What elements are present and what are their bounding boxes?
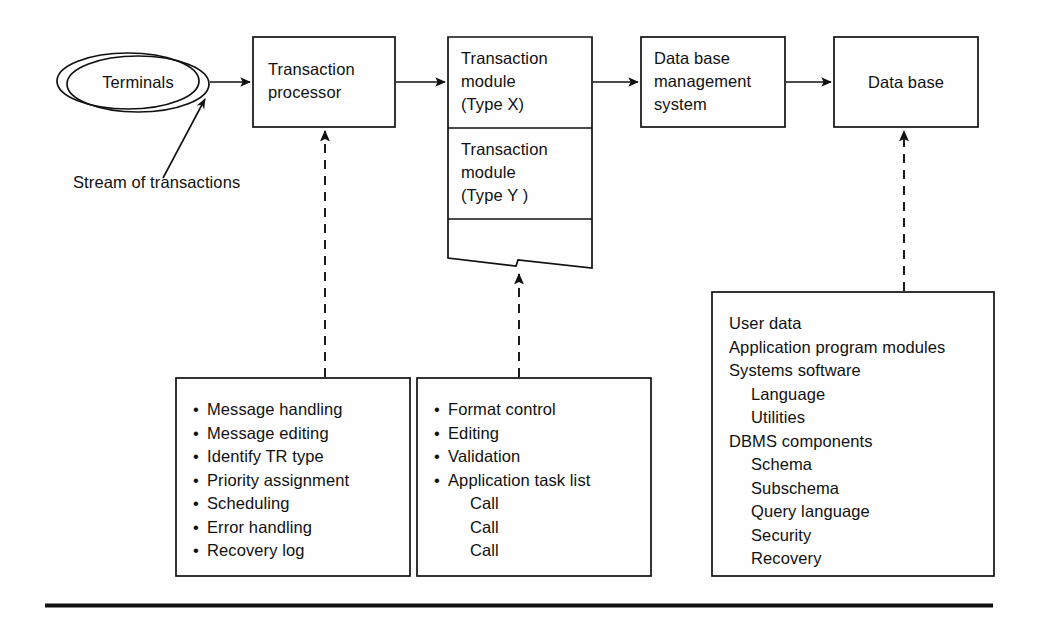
list-item: Subschema — [729, 477, 991, 501]
bullet-icon: • — [434, 422, 448, 446]
dbms-label-line1: Data base — [654, 48, 730, 69]
list-item: •Recovery log — [193, 539, 407, 563]
transaction-module-y-label-line3: (Type Y ) — [461, 185, 528, 206]
list-item-label: Format control — [448, 400, 556, 418]
stream-of-transactions-leader — [163, 99, 205, 178]
bullet-icon: • — [434, 398, 448, 422]
list-item: •Scheduling — [193, 492, 407, 516]
dbms-label-line2: management — [654, 71, 751, 92]
list-item: •Editing — [434, 422, 648, 446]
list-item: Query language — [729, 500, 991, 524]
list-item: Systems software — [729, 359, 991, 383]
list-item-label: Editing — [448, 424, 499, 442]
list-item: •Message handling — [193, 398, 407, 422]
bullet-icon: • — [193, 492, 207, 516]
sub-list-item: Call — [434, 539, 648, 563]
bullet-icon: • — [434, 469, 448, 493]
list-item-label: Recovery log — [207, 541, 305, 559]
transaction-module-y-label-line2: module — [461, 162, 516, 183]
list-item-label: Validation — [448, 447, 520, 465]
transaction-module-y-label-line1: Transaction — [461, 139, 548, 160]
list-item: •Priority assignment — [193, 469, 407, 493]
bullet-icon: • — [193, 422, 207, 446]
stream-of-transactions-label: Stream of transactions — [73, 172, 240, 193]
bullet-icon: • — [193, 516, 207, 540]
transaction-module-detail-list: •Format control•Editing•Validation•Appli… — [434, 398, 648, 563]
list-item-label: Message editing — [207, 424, 329, 442]
list-item: Language — [729, 383, 991, 407]
list-item-label: Message handling — [207, 400, 343, 418]
dbms-label-line3: system — [654, 94, 707, 115]
list-item: •Format control — [434, 398, 648, 422]
list-item: •Identify TR type — [193, 445, 407, 469]
bullet-icon: • — [193, 469, 207, 493]
list-item: DBMS components — [729, 430, 991, 454]
list-item-label: Error handling — [207, 518, 312, 536]
transaction-module-x-label-line2: module — [461, 71, 516, 92]
list-item-label: Identify TR type — [207, 447, 324, 465]
list-item: •Error handling — [193, 516, 407, 540]
transaction-processor-label-line2: processor — [268, 82, 341, 103]
list-item: •Validation — [434, 445, 648, 469]
list-item: Schema — [729, 453, 991, 477]
list-item: Application program modules — [729, 336, 991, 360]
list-item: •Application task list — [434, 469, 648, 493]
bullet-icon: • — [193, 445, 207, 469]
terminals-label: Terminals — [78, 72, 198, 93]
bullet-icon: • — [193, 539, 207, 563]
bullet-icon: • — [193, 398, 207, 422]
list-item: Security — [729, 524, 991, 548]
transaction-processor-label-line1: Transaction — [268, 59, 355, 80]
list-item-label: Priority assignment — [207, 471, 349, 489]
sub-list-item: Call — [434, 492, 648, 516]
list-item-label: Scheduling — [207, 494, 290, 512]
transaction-module-x-label-line3: (Type X) — [461, 94, 524, 115]
list-item: •Message editing — [193, 422, 407, 446]
transaction-processor-detail-list: •Message handling•Message editing•Identi… — [193, 398, 407, 563]
list-item: Recovery — [729, 547, 991, 571]
list-item: User data — [729, 312, 991, 336]
list-item: Utilities — [729, 406, 991, 430]
sub-list-item: Call — [434, 516, 648, 540]
database-detail-list: User dataApplication program modulesSyst… — [729, 312, 991, 571]
database-label: Data base — [834, 72, 978, 93]
transaction-module-x-label-line1: Transaction — [461, 48, 548, 69]
list-item-label: Application task list — [448, 471, 590, 489]
bullet-icon: • — [434, 445, 448, 469]
diagram-canvas: Terminals Transaction processor Transact… — [0, 0, 1039, 620]
